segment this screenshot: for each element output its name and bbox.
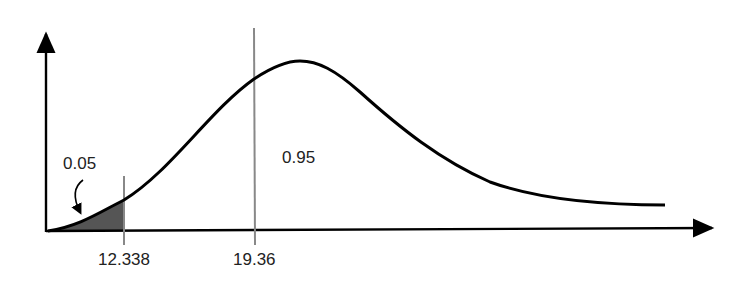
critical-line-1936: [254, 28, 255, 245]
tail-area-label: 0.05: [63, 154, 96, 174]
body-area-label: 0.95: [282, 148, 315, 168]
tail-pointer-arrow: [75, 180, 83, 212]
x-axis: [46, 228, 712, 231]
chart-canvas: [0, 0, 753, 285]
x-tick-label-12338: 12.338: [98, 250, 150, 270]
x-tick-label-1936: 19.36: [233, 250, 276, 270]
density-curve: [48, 61, 665, 231]
